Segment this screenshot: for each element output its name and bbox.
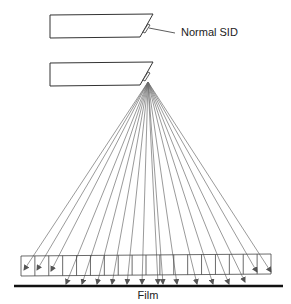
normal-sid-label: Normal SID: [181, 26, 238, 38]
xray-ray: [148, 82, 271, 272]
xray-ray: [148, 82, 257, 272]
xray-ray: [24, 82, 148, 270]
grid: [21, 254, 271, 276]
diverging-rays: [24, 82, 271, 284]
film-label: Film: [138, 289, 159, 301]
xray-tube-short: [50, 62, 153, 86]
xray-tube-normal: [50, 14, 175, 38]
xray-ray: [148, 82, 158, 284]
xray-ray: [148, 82, 213, 284]
leader-line: [149, 28, 175, 33]
sid-divergence-diagram: Normal SID Film: [0, 0, 291, 304]
xray-ray: [82, 82, 148, 284]
xray-ray: [66, 82, 148, 284]
xray-ray: [51, 82, 148, 271]
xray-ray: [97, 82, 148, 284]
xray-ray: [148, 82, 229, 284]
